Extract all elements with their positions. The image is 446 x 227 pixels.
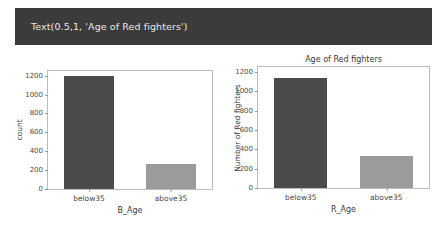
chart-right: Age of Red fighters Number of Red fighte… (223, 52, 446, 227)
ytick-label: 0 (249, 184, 258, 192)
chart-left-xlabel: B_Age (118, 206, 143, 215)
ytick-label: 800 (30, 109, 48, 117)
repr-output-bar: Text(0.5,1, 'Age of Red fighters') (15, 8, 432, 45)
chart-right-xlabel: R_Age (331, 205, 356, 214)
chart-left-ylabel: count (15, 119, 24, 140)
plot-area-left: count B_Age 020040060080010001200below35… (47, 70, 213, 190)
bar-below35 (274, 78, 327, 188)
ytick-label: 600 (30, 128, 48, 136)
ytick-label: 200 (240, 165, 258, 173)
ytick-label: 0 (39, 185, 48, 193)
ytick-label: 1000 (25, 91, 48, 99)
xtick-label: below35 (285, 193, 317, 202)
chart-right-title: Age of Red fighters (305, 55, 382, 64)
xtick-label: below35 (73, 194, 105, 203)
ytick-label: 1200 (25, 72, 48, 80)
chart-left: count B_Age 020040060080010001200below35… (0, 52, 223, 227)
ytick-label: 400 (240, 145, 258, 153)
ytick-label: 600 (240, 126, 258, 134)
ytick-label: 200 (30, 166, 48, 174)
bar-above35 (146, 164, 197, 189)
ytick-label: 1200 (235, 68, 258, 76)
xtick-label: above35 (155, 194, 188, 203)
ytick-label: 400 (30, 147, 48, 155)
repr-output-text: Text(0.5,1, 'Age of Red fighters') (31, 21, 188, 32)
ytick-label: 800 (240, 107, 258, 115)
plot-area-right: Age of Red fighters Number of Red fighte… (257, 66, 430, 189)
bar-below35 (64, 76, 115, 189)
xtick-label: above35 (370, 193, 403, 202)
bar-above35 (360, 156, 413, 188)
ytick-label: 1000 (235, 87, 258, 95)
